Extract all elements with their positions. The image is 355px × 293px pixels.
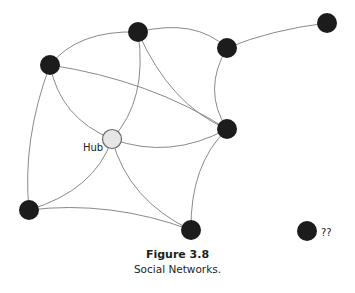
node-a bbox=[40, 55, 60, 75]
node-b bbox=[128, 22, 148, 42]
edge-hub-e bbox=[112, 129, 227, 147]
node-f bbox=[19, 200, 39, 220]
node-c bbox=[217, 38, 237, 58]
edge-b-c bbox=[138, 28, 227, 48]
hub-label: Hub bbox=[83, 142, 103, 153]
edge-a-b bbox=[50, 32, 138, 65]
isolated-node-label: ?? bbox=[321, 227, 332, 238]
node-g bbox=[181, 220, 201, 240]
edges bbox=[28, 23, 327, 230]
edge-a-e bbox=[50, 65, 227, 129]
figure-caption: Social Networks. bbox=[0, 263, 355, 275]
edge-c-e bbox=[215, 48, 228, 129]
edge-b-e bbox=[138, 32, 227, 129]
node-labels: Hub ?? bbox=[83, 142, 332, 238]
node-isolated bbox=[297, 221, 317, 241]
node-hub bbox=[103, 130, 122, 149]
edge-c-d bbox=[227, 23, 327, 48]
edge-f-g bbox=[29, 208, 191, 231]
edge-hub-g bbox=[112, 139, 191, 230]
node-d bbox=[317, 13, 337, 33]
nodes bbox=[19, 13, 337, 241]
edge-a-f bbox=[28, 65, 50, 210]
edge-e-g bbox=[191, 129, 227, 230]
figure-title: Figure 3.8 bbox=[0, 248, 355, 261]
node-e bbox=[217, 119, 237, 139]
